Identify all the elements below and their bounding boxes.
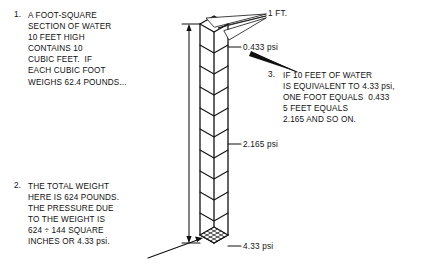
base-square-face (200, 227, 228, 243)
note-3-text: IF 10 FEET OF WATER IS EQUIVALENT TO 4.3… (283, 70, 395, 125)
note-1-number: 1. (14, 10, 21, 19)
one-foot-arrow-fan (206, 14, 266, 40)
callout-0433-psi: 0.433 psi (243, 43, 278, 52)
callout-one-foot: 1 FT. (268, 9, 287, 18)
note2-to-base-arrow (148, 237, 203, 259)
callout-433-psi: 4.33 psi (243, 242, 273, 251)
diagram-canvas: 1. A FOOT-SQUARE SECTION OF WATER 10 FEE… (0, 0, 432, 279)
pressure-leader-lines (228, 47, 241, 246)
note-2-number: 2. (14, 181, 21, 190)
note-3-number: 3. (268, 70, 275, 79)
note3-to-0433-arrow (249, 51, 297, 72)
callout-2165-psi: 2.165 psi (243, 140, 278, 149)
note-1-text: A FOOT-SQUARE SECTION OF WATER 10 FEET H… (28, 10, 127, 88)
note-2-text: THE TOTAL WEIGHT HERE IS 624 POUNDS. THE… (28, 181, 119, 248)
height-dimension-line (182, 24, 200, 243)
column-vertical-edges (200, 24, 228, 243)
